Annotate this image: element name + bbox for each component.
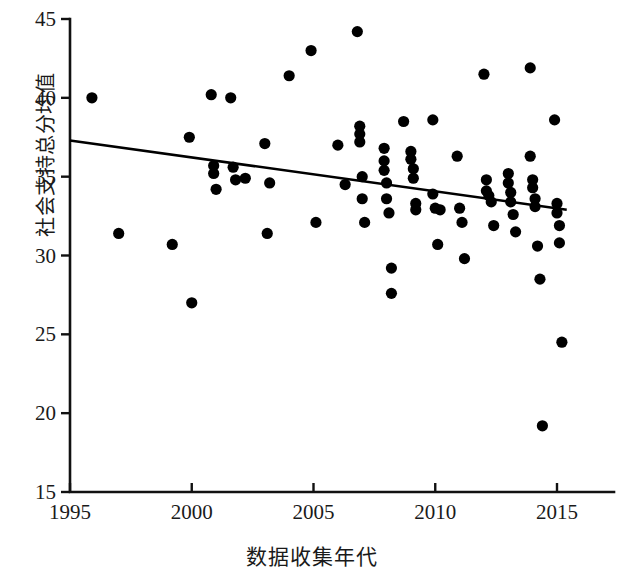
data-point — [340, 179, 351, 190]
data-point — [503, 177, 514, 188]
data-point — [478, 69, 489, 80]
data-point — [456, 217, 467, 228]
data-point — [357, 193, 368, 204]
scatter-plot-figure: 45403530252015 19952000200520102015 社会支持… — [0, 0, 624, 576]
data-point — [427, 188, 438, 199]
data-point — [379, 143, 390, 154]
data-point — [383, 207, 394, 218]
data-point — [486, 196, 497, 207]
data-point — [264, 177, 275, 188]
x-tick-label: 1995 — [49, 500, 91, 525]
data-point — [208, 168, 219, 179]
data-point — [186, 297, 197, 308]
data-point — [551, 207, 562, 218]
data-point — [225, 92, 236, 103]
data-point — [284, 70, 295, 81]
x-tick-label: 2005 — [293, 500, 335, 525]
x-tick-label: 2010 — [414, 500, 456, 525]
data-point — [410, 204, 421, 215]
data-point — [554, 220, 565, 231]
data-point — [206, 89, 217, 100]
data-point — [508, 209, 519, 220]
data-point — [113, 228, 124, 239]
data-point — [549, 114, 560, 125]
data-point — [379, 165, 390, 176]
data-point — [525, 151, 536, 162]
data-point — [240, 173, 251, 184]
data-point — [534, 274, 545, 285]
data-points — [86, 26, 567, 431]
data-point — [435, 204, 446, 215]
data-point — [529, 201, 540, 212]
x-tick-label: 2015 — [536, 500, 578, 525]
data-point — [381, 177, 392, 188]
axis-ticks — [61, 19, 557, 492]
plot-canvas — [0, 0, 624, 576]
data-point — [357, 171, 368, 182]
data-point — [332, 140, 343, 151]
y-tick-label: 20 — [8, 401, 56, 426]
data-point — [481, 174, 492, 185]
data-point — [359, 217, 370, 228]
data-point — [556, 337, 567, 348]
data-point — [532, 240, 543, 251]
data-point — [352, 26, 363, 37]
data-point — [427, 114, 438, 125]
data-point — [381, 193, 392, 204]
x-axis-title: 数据收集年代 — [0, 540, 624, 570]
data-point — [510, 226, 521, 237]
data-point — [262, 228, 273, 239]
data-point — [211, 184, 222, 195]
data-point — [525, 62, 536, 73]
data-point — [310, 217, 321, 228]
data-point — [459, 253, 470, 264]
y-axis-title: 社会支持总分均值 — [30, 25, 59, 285]
y-tick-label: 25 — [8, 322, 56, 347]
data-point — [230, 174, 241, 185]
data-point — [386, 288, 397, 299]
data-point — [454, 203, 465, 214]
axis-lines — [70, 19, 614, 492]
data-point — [184, 132, 195, 143]
data-point — [527, 182, 538, 193]
data-point — [408, 173, 419, 184]
data-point — [305, 45, 316, 56]
data-point — [505, 196, 516, 207]
data-point — [259, 138, 270, 149]
data-point — [354, 136, 365, 147]
data-point — [488, 220, 499, 231]
data-point — [432, 239, 443, 250]
x-tick-label: 2000 — [171, 500, 213, 525]
data-point — [86, 92, 97, 103]
data-point — [228, 162, 239, 173]
data-point — [452, 151, 463, 162]
data-point — [405, 154, 416, 165]
data-point — [167, 239, 178, 250]
data-point — [398, 116, 409, 127]
data-point — [554, 237, 565, 248]
data-point — [386, 263, 397, 274]
data-point — [537, 420, 548, 431]
